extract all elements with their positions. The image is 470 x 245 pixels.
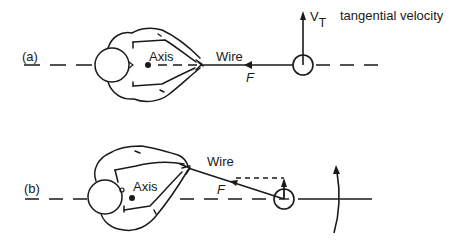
force-arrowhead-a — [244, 61, 252, 69]
force-label-b: F — [217, 182, 226, 197]
force-label-a: F — [246, 70, 255, 85]
axis-label-a: Axis — [149, 49, 174, 64]
wire-label-a: Wire — [216, 49, 243, 64]
axis-dot-b — [129, 195, 135, 201]
hammer-throw-diagram: (a) Axis Wire F — [0, 0, 470, 245]
panel-a-label: (a) — [22, 49, 38, 64]
rotation-arc-b — [334, 172, 339, 233]
rotation-arrowhead-b — [333, 165, 340, 174]
panel-a: (a) Axis Wire F — [22, 8, 444, 102]
panel-b: (b) Axis Wire F — [24, 146, 372, 233]
force-arrowhead-b — [230, 180, 238, 186]
velocity-symbol: VT — [310, 9, 327, 30]
axis-label-b: Axis — [133, 179, 158, 194]
tangential-arrowhead-b — [281, 178, 287, 187]
head-circle-a — [95, 48, 129, 82]
velocity-arrowhead-a — [300, 11, 306, 20]
velocity-caption: tangential velocity — [340, 8, 444, 23]
wire-label-b: Wire — [207, 154, 234, 169]
panel-b-label: (b) — [24, 181, 40, 196]
head-circle-b — [88, 180, 122, 214]
nose-b — [120, 188, 124, 192]
